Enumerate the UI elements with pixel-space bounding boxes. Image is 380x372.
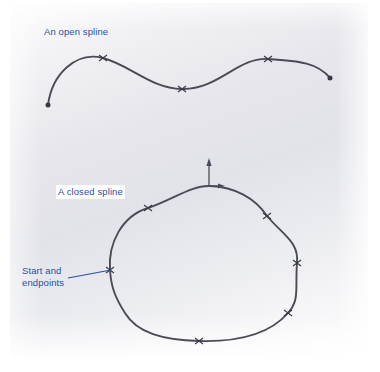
control-point-cross: [263, 213, 271, 219]
open-spline-start-point: [46, 103, 51, 108]
control-point-cross: [284, 310, 292, 316]
closed-spline-label: A closed spline: [56, 185, 125, 199]
start-endpoints-label: Start andendpoints: [22, 265, 64, 289]
closed-spline-curve: [110, 186, 297, 341]
start-endpoints-label-line1: Start and: [22, 265, 61, 276]
open-spline-control-points: [99, 55, 272, 92]
open-spline-end-point: [328, 76, 333, 81]
axis-indicator-group: [206, 158, 225, 188]
closed-spline-group: [106, 186, 301, 344]
axis-y-arrowhead: [206, 158, 211, 166]
open-spline-label: An open spline: [44, 26, 108, 38]
start-endpoints-label-line2: endpoints: [22, 277, 64, 288]
closed-spline-control-points: [106, 205, 301, 344]
start-endpoints-leader-line: [68, 270, 111, 278]
open-spline-curve: [48, 57, 330, 105]
open-spline-group: [46, 55, 333, 108]
spline-diagram-figure: An open spline A closed spline Start and…: [0, 0, 380, 372]
